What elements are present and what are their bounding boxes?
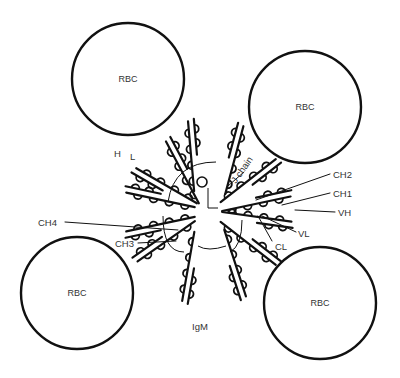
j-chain-loop (197, 177, 207, 187)
disulfide-bond (198, 246, 226, 249)
label-cl: CL (275, 241, 287, 252)
label-l: L (130, 151, 135, 162)
rbc-label: RBC (67, 288, 87, 298)
rbc-top-right: RBC (249, 51, 361, 163)
label-igm: IgM (192, 321, 208, 332)
label-vl: VL (298, 228, 310, 239)
label-ch2: CH2 (333, 169, 352, 180)
rbc-label: RBC (295, 102, 315, 112)
leader-vh (295, 210, 335, 212)
disulfide-bond (230, 220, 242, 252)
igm-arm (221, 208, 294, 232)
igm-arm (178, 231, 204, 304)
rbc-bottom-left: RBC (21, 237, 133, 349)
label-vh: VH (338, 207, 351, 218)
label-ch1: CH1 (333, 188, 352, 199)
diagram-canvas: RBC RBC RBC RBC (0, 0, 400, 378)
igm-arm (215, 229, 251, 302)
rbc-label: RBC (310, 298, 330, 308)
leader-ch1 (282, 193, 330, 205)
igm-arm (162, 135, 208, 205)
rbc-top-left: RBC (72, 23, 184, 135)
label-h: H (114, 148, 121, 159)
igm-diagram: RBC RBC RBC RBC (0, 0, 400, 378)
label-ch4: CH4 (38, 217, 57, 228)
j-chain (208, 188, 218, 208)
rbc-label: RBC (118, 74, 138, 84)
leader-lines (65, 172, 335, 243)
label-ch3: CH3 (115, 238, 134, 249)
igm-arm (130, 213, 197, 266)
rbc-bottom-right: RBC (264, 247, 376, 359)
